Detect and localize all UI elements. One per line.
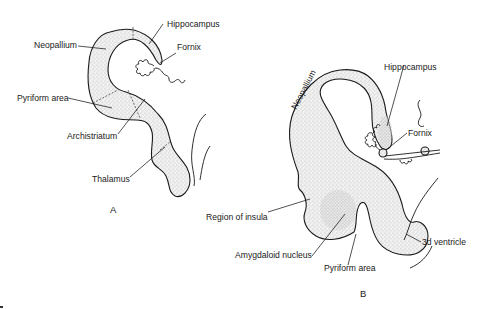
brain-section-diagram: Neopallium Hippocampus Fornix Pyriform a… [0, 0, 481, 309]
panel-a-outer-contour [192, 114, 210, 186]
label-b-pyriform-area: Pyriform area [324, 263, 376, 273]
panel-a-caption: A [110, 204, 117, 215]
label-a-neopallium: Neopallium [34, 40, 77, 50]
label-a-thalamus: Thalamus [92, 174, 130, 184]
panel-a: Neopallium Hippocampus Fornix Pyriform a… [17, 19, 220, 215]
label-a-hippocampus: Hippocampus [167, 19, 220, 29]
label-b-amygdaloid-nucleus: Amygdaloid nucleus [235, 250, 312, 260]
scan-artifact [0, 306, 3, 308]
label-b-hippocampus: Hippocampus [384, 62, 437, 72]
label-b-3d-ventricle: 3d ventricle [422, 237, 466, 247]
panel-b-hemisphere-shape [290, 70, 428, 255]
label-b-region-of-insula: Region of insula [206, 212, 268, 222]
hippocampus-region [378, 116, 392, 148]
amygdaloid-region [320, 190, 356, 230]
panel-a-hemisphere-shape [88, 29, 190, 196]
panel-b-caption: B [360, 288, 366, 299]
label-a-archistriatum: Archistriatum [67, 131, 117, 141]
label-b-fornix: Fornix [408, 128, 433, 138]
panel-b: Hippocampus Fornix Neopallium Region of … [206, 62, 466, 299]
label-a-fornix: Fornix [177, 42, 202, 52]
label-a-pyriform-area: Pyriform area [17, 93, 69, 103]
